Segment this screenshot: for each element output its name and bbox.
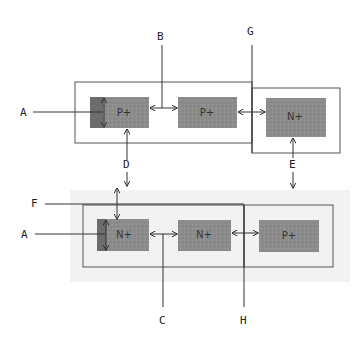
bottom-label-a: A xyxy=(21,228,28,241)
bottom-region-p1-label: P+ xyxy=(282,230,296,241)
top-section: P+ P+ N+ A B G D E xyxy=(20,25,340,188)
bottom-region-n2-label: N+ xyxy=(196,229,212,240)
bottom-label-f: F xyxy=(31,197,38,210)
bottom-section: N+ N+ P+ F A C H xyxy=(21,188,350,327)
top-region-n1-label: N+ xyxy=(287,111,303,122)
top-region-p2-label: P+ xyxy=(200,107,214,118)
top-label-a: A xyxy=(20,106,27,119)
top-label-b: B xyxy=(157,30,164,43)
device-cross-section-diagram: P+ P+ N+ A B G D E N+ N+ P+ xyxy=(0,0,361,346)
bottom-label-c: C xyxy=(159,314,166,327)
label-e: E xyxy=(289,158,296,171)
bottom-label-h: H xyxy=(240,314,247,327)
bottom-region-n1-label: N+ xyxy=(116,229,132,240)
top-region-p1-label: P+ xyxy=(117,107,131,118)
label-d: D xyxy=(123,158,130,171)
top-label-g: G xyxy=(247,25,254,38)
bottom-region-n1-dark-strip xyxy=(97,219,106,251)
